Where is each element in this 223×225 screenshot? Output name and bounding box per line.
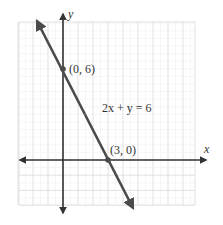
x-axis-label: x xyxy=(203,142,210,156)
point-b-label: (3, 0) xyxy=(110,143,136,157)
graph: y x (0, 6) (3, 0) 2x + y = 6 xyxy=(0,0,223,225)
point-a xyxy=(60,66,66,72)
y-axis-label: y xyxy=(67,7,74,21)
point-a-label: (0, 6) xyxy=(69,62,95,76)
point-b xyxy=(105,157,111,163)
equation-label: 2x + y = 6 xyxy=(102,101,152,115)
